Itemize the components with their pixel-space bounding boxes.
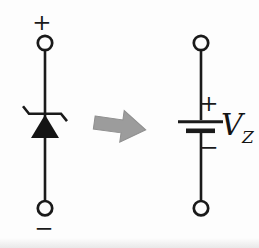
source-bottom-terminal — [194, 201, 208, 215]
zener-anode-triangle — [31, 115, 59, 138]
source-top-terminal — [194, 36, 208, 50]
zener-plus-label: + — [32, 9, 51, 35]
source-plus-label: + — [199, 90, 218, 116]
right-arrow-icon — [92, 107, 148, 146]
zener-bottom-terminal — [38, 201, 52, 215]
circuit-diagram: + − + − V Z — [0, 0, 259, 248]
zener-equivalent-figure: + − + − V Z — [0, 0, 259, 248]
source-branch: + − V Z — [178, 36, 255, 216]
source-value-subscript: Z — [241, 127, 255, 147]
equivalence-arrow — [92, 107, 148, 146]
source-minus-label: − — [199, 134, 218, 160]
zener-top-terminal — [38, 36, 52, 50]
zener-minus-label: − — [34, 215, 53, 241]
zener-branch: + − — [23, 9, 67, 241]
